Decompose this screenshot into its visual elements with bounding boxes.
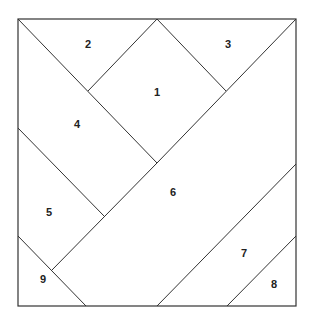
piece-label-4: 4: [74, 118, 81, 130]
piece-label-2: 2: [85, 38, 91, 50]
divider-line-3: [157, 19, 226, 91]
piece-label-1: 1: [154, 86, 160, 98]
dividing-lines: [18, 19, 296, 306]
piece-label-7: 7: [241, 247, 247, 259]
piece-label-8: 8: [271, 278, 277, 290]
divider-line-5: [18, 128, 104, 216]
divider-line-9: [227, 236, 296, 306]
dissection-diagram: 123456789: [0, 0, 312, 322]
piece-label-6: 6: [170, 186, 176, 198]
piece-label-5: 5: [46, 206, 52, 218]
divider-line-4: [88, 19, 157, 91]
divider-line-7: [18, 236, 86, 306]
piece-label-3: 3: [225, 38, 231, 50]
piece-label-9: 9: [40, 273, 46, 285]
